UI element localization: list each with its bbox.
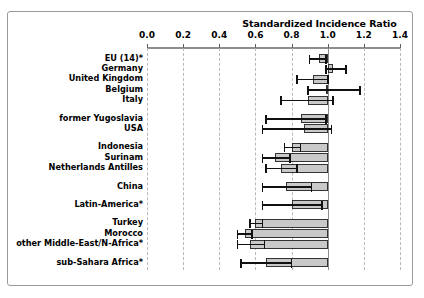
y-label-eu-14: EU (14)* xyxy=(105,53,143,63)
error-bar-cap-high xyxy=(325,115,327,124)
x-tick-label-0.0: 0.0 xyxy=(139,30,155,40)
y-label-china: China xyxy=(117,181,143,191)
bar-row xyxy=(147,123,400,134)
y-label-sub-sahara-africa: sub-Sahara Africa* xyxy=(56,257,143,267)
x-tick-label-0.2: 0.2 xyxy=(175,30,191,40)
error-bar-line xyxy=(263,128,332,130)
bar-row xyxy=(147,239,400,250)
bar-row xyxy=(147,181,400,192)
error-bar-line xyxy=(281,100,333,102)
bar-row xyxy=(147,63,400,74)
error-bar-cap-low xyxy=(240,259,242,268)
bar-row xyxy=(147,113,400,124)
error-bar-cap-low xyxy=(237,230,239,239)
y-label-other-middle-east-n-africa: other Middle-East/N-Africa* xyxy=(16,238,143,248)
gridline xyxy=(400,48,401,270)
plot-area xyxy=(147,48,400,270)
error-bar-cap-low xyxy=(237,240,239,249)
bar xyxy=(245,229,328,238)
error-bar-cap-low xyxy=(249,219,251,228)
error-bar-cap-high xyxy=(331,125,333,134)
error-bar-cap-low xyxy=(262,183,264,192)
bar-row xyxy=(147,95,400,106)
bar-row xyxy=(147,84,400,95)
error-bar-line xyxy=(263,157,290,159)
error-bar-line xyxy=(263,204,323,206)
error-bar-cap-high xyxy=(321,201,323,210)
error-bar-cap-low xyxy=(284,143,286,152)
error-bar-cap-high xyxy=(296,164,298,173)
y-label-belgium: Belgium xyxy=(105,84,143,94)
x-tick-label-1.2: 1.2 xyxy=(356,30,372,40)
error-bar-cap-high xyxy=(251,230,253,239)
y-label-indonesia: Indonesia xyxy=(98,141,143,151)
y-label-usa: USA xyxy=(124,123,143,133)
forest-plot-chart: Standardized Incidence Ratio 0.00.20.40.… xyxy=(0,0,424,298)
error-bar-line xyxy=(241,262,292,264)
error-bar-line xyxy=(284,147,300,149)
error-bar-cap-low xyxy=(325,65,327,74)
error-bar-cap-low xyxy=(309,55,311,64)
x-tick-label-0.4: 0.4 xyxy=(211,30,227,40)
error-bar-cap-high xyxy=(300,143,302,152)
error-bar-cap-high xyxy=(327,75,329,84)
error-bar-cap-high xyxy=(325,55,327,64)
bar-row xyxy=(147,163,400,174)
bar-row xyxy=(147,74,400,85)
error-bar-cap-high xyxy=(264,240,266,249)
error-bar-cap-low xyxy=(296,75,298,84)
error-bar-cap-high xyxy=(289,154,291,163)
error-bar-line xyxy=(310,58,326,60)
error-bar-cap-low xyxy=(280,96,282,105)
error-bar-cap-high xyxy=(332,96,334,105)
bar-row xyxy=(147,228,400,239)
error-bar-line xyxy=(266,168,297,170)
bar-row xyxy=(147,152,400,163)
error-bar-cap-high xyxy=(262,219,264,228)
error-bar-cap-low xyxy=(265,164,267,173)
error-bar-line xyxy=(326,68,346,70)
bar-row xyxy=(147,142,400,153)
error-bar-cap-high xyxy=(291,259,293,268)
error-bar-cap-low xyxy=(262,125,264,134)
chart-title: Standardized Incidence Ratio xyxy=(222,18,417,29)
y-label-turkey: Turkey xyxy=(112,217,143,227)
bar-row xyxy=(147,199,400,210)
y-label-germany: Germany xyxy=(101,63,143,73)
x-tick-label-1.0: 1.0 xyxy=(320,30,336,40)
x-tick-label-0.6: 0.6 xyxy=(247,30,263,40)
error-bar-line xyxy=(297,79,328,81)
y-label-united-kingdom: United Kingdom xyxy=(69,73,143,83)
error-bar-cap-low xyxy=(265,115,267,124)
x-tick-label-1.4: 1.4 xyxy=(392,30,408,40)
bar xyxy=(255,219,327,228)
error-bar-cap-low xyxy=(262,154,264,163)
y-label-latin-america: Latin-America* xyxy=(74,199,143,209)
error-bar-cap-high xyxy=(345,65,347,74)
y-label-former-yugoslavia: former Yugoslavia xyxy=(59,113,143,123)
bar-row xyxy=(147,218,400,229)
y-axis-category-labels: EU (14)*GermanyUnited KingdomBelgiumItal… xyxy=(0,48,143,272)
error-bar-cap-low xyxy=(307,86,309,95)
error-bar-line xyxy=(263,186,312,188)
y-label-surinam: Surinam xyxy=(105,152,143,162)
error-bar-line xyxy=(237,244,264,246)
bar-row xyxy=(147,257,400,268)
bar-row xyxy=(147,53,400,64)
x-tick-label-0.8: 0.8 xyxy=(284,30,300,40)
y-label-italy: Italy xyxy=(122,94,143,104)
error-bar-cap-high xyxy=(311,183,313,192)
error-bar-line xyxy=(250,223,263,225)
y-label-morocco: Morocco xyxy=(104,228,143,238)
error-bar-line xyxy=(266,118,326,120)
error-bar-cap-low xyxy=(262,201,264,210)
error-bar-line xyxy=(237,233,251,235)
error-bar-line xyxy=(308,89,360,91)
y-label-netherlands-antilles: Netherlands Antilles xyxy=(49,162,143,172)
error-bar-cap-high xyxy=(359,86,361,95)
